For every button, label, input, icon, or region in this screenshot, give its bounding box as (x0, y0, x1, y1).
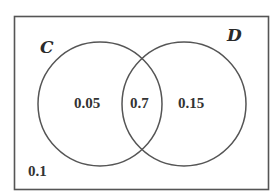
c-only-value: 0.05 (74, 96, 100, 111)
set-c-label: C (40, 39, 54, 56)
d-only-value: 0.15 (178, 96, 204, 111)
outside-value: 0.1 (28, 164, 47, 179)
set-d-label: D (227, 27, 242, 44)
intersection-value: 0.7 (130, 96, 149, 111)
